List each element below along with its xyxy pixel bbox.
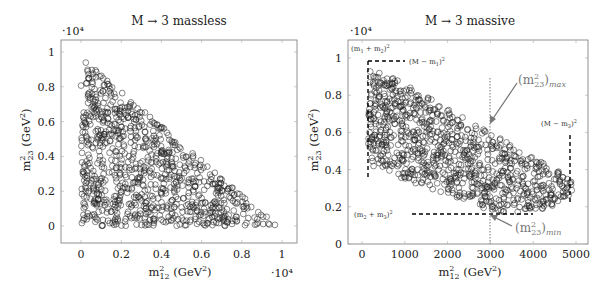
- left-x-scale: ·10⁴: [271, 267, 293, 280]
- svg-text:5000: 5000: [562, 248, 590, 261]
- left-x-label: m212 (GeV2): [148, 264, 211, 281]
- svg-text:0.8: 0.8: [325, 89, 343, 102]
- svg-text:0.6: 0.6: [38, 116, 56, 129]
- left-scatter-points: [78, 60, 278, 229]
- svg-text:0: 0: [78, 248, 85, 261]
- left-y-scale: ·10⁴: [62, 25, 84, 38]
- svg-text:1: 1: [335, 52, 342, 65]
- svg-text:0.6: 0.6: [325, 126, 343, 139]
- annotation-m1-plus-m2: (m1 + m2)2: [351, 43, 390, 54]
- right-title: M → 3 massive: [425, 14, 515, 28]
- left-title: M → 3 massless: [131, 14, 227, 28]
- right-y-scale: ·10⁴: [350, 25, 372, 38]
- annotation-M-minus-m3: (M − m3)2: [541, 118, 577, 129]
- svg-text:2000: 2000: [434, 248, 462, 261]
- annotation-m23-min: (m223)min: [515, 220, 561, 237]
- svg-text:0.4: 0.4: [153, 248, 171, 261]
- svg-text:0: 0: [335, 238, 342, 251]
- left-x-ticks: 00.20.40.60.81: [78, 40, 286, 261]
- left-y-label: m223 (GeV2): [18, 108, 35, 171]
- annotation-m23-max: (m223)max: [518, 72, 566, 89]
- annotation-M-minus-m1: (M − m1)2: [409, 56, 445, 67]
- right-x-label: m212 (GeV2): [438, 264, 501, 281]
- svg-text:0.4: 0.4: [325, 164, 343, 177]
- svg-text:3000: 3000: [476, 248, 504, 261]
- svg-text:0: 0: [48, 220, 55, 233]
- arrow-m23-max: [492, 83, 517, 120]
- right-y-label: m223 (GeV2): [306, 108, 323, 171]
- svg-text:0.4: 0.4: [38, 150, 56, 163]
- right-scatter-points: [366, 69, 575, 215]
- left-panel: M → 3 massless ·10⁴ 00.20.40.60.81 00.20…: [18, 14, 297, 281]
- left-y-ticks: 00.20.40.60.81: [38, 46, 298, 233]
- annotation-m2-plus-m3: (m2 + m3)2: [354, 209, 393, 220]
- svg-text:1: 1: [279, 248, 286, 261]
- svg-text:0.2: 0.2: [325, 201, 343, 214]
- figure: M → 3 massless ·10⁴ 00.20.40.60.81 00.20…: [0, 0, 603, 294]
- svg-text:0.2: 0.2: [112, 248, 130, 261]
- svg-text:4000: 4000: [519, 248, 547, 261]
- svg-text:1000: 1000: [391, 248, 419, 261]
- svg-text:1: 1: [48, 46, 55, 59]
- arrow-m23-min: [494, 217, 512, 226]
- svg-text:0.8: 0.8: [38, 81, 56, 94]
- svg-text:0: 0: [359, 248, 366, 261]
- svg-text:0.8: 0.8: [233, 248, 251, 261]
- svg-text:0.2: 0.2: [38, 185, 56, 198]
- svg-text:0.6: 0.6: [193, 248, 211, 261]
- right-panel: M → 3 massive ·10⁴ 010002000300040005000…: [306, 14, 590, 281]
